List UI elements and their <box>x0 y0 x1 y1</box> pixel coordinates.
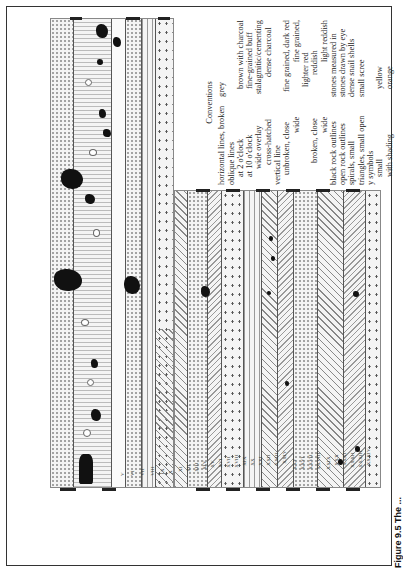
black-rock-large <box>54 269 82 291</box>
layer-label: XIII <box>194 462 199 472</box>
black-rock <box>271 256 275 261</box>
layer-scree <box>221 191 244 487</box>
legend-meaning: lighter red <box>301 20 310 97</box>
conventions-title: Conventions <box>205 20 214 185</box>
legend-row: oblique lines <box>227 20 236 185</box>
scale-bar <box>256 189 270 192</box>
legend-pattern: y symbols <box>366 97 375 185</box>
scale-bar <box>346 488 360 491</box>
legend-meaning: reddish <box>310 20 319 75</box>
legend-row: spirals, smalldense snail shells <box>347 20 356 185</box>
figure-caption: Figure 9.5 The ... <box>393 300 405 568</box>
scale-bar <box>196 488 210 491</box>
black-rock <box>91 409 101 421</box>
legend-meaning: fine grained, dark red <box>282 20 291 92</box>
legend-meaning: small scree <box>357 20 366 97</box>
black-rock <box>61 169 83 189</box>
open-rock <box>85 79 92 86</box>
layer-label: XXIX <box>326 456 331 470</box>
layer-dotted <box>51 19 73 487</box>
layer-label: XXXIII <box>358 450 363 468</box>
layer-label: VII <box>140 468 145 476</box>
layer-label: VI <box>130 470 135 476</box>
legend-row: lighter red <box>301 20 310 185</box>
layer-oblique-hatch <box>317 191 344 487</box>
layer-oblique-hatch <box>175 191 187 487</box>
legend-meaning: fine-grained buff <box>245 20 254 89</box>
scale-bar <box>102 488 116 491</box>
legend-row: open rock outlinesstones drawn by eye <box>338 20 347 185</box>
layer-oblique-hatch <box>155 329 174 487</box>
legend-pattern: unbroken, close <box>282 92 291 185</box>
legend-meaning <box>273 20 282 97</box>
layer-label: XXVI <box>300 456 305 470</box>
section-drawing-lower <box>174 190 381 488</box>
layer-oblique-hatch <box>343 191 366 487</box>
black-rock <box>267 291 271 295</box>
layer-scree <box>365 191 381 487</box>
black-rock <box>91 359 98 368</box>
scale-bar <box>286 189 300 192</box>
layer-label: XII <box>186 464 191 472</box>
black-rock <box>269 236 273 241</box>
scale-bar <box>286 488 300 491</box>
open-rock <box>89 149 97 156</box>
legend-pattern: triangles, small open <box>357 97 366 185</box>
layer-label: XVII <box>226 456 231 468</box>
layer-label: X <box>168 470 173 474</box>
layer-label: XVIII <box>234 454 239 468</box>
black-rock <box>97 59 103 65</box>
layer-label: XXV <box>292 458 297 470</box>
legend-pattern: at 2 o'clock <box>236 89 245 185</box>
legend-pattern <box>301 97 310 185</box>
layer-label: XIX <box>242 456 247 466</box>
layer-dotted <box>187 191 208 487</box>
layer-label: XXXII <box>350 452 355 468</box>
black-rock <box>285 381 289 386</box>
layer-vertical-lines <box>141 19 156 487</box>
layer-label: XXVIII <box>316 452 321 470</box>
layer-label: XXX <box>334 454 339 466</box>
legend-meaning: light reddish <box>320 20 329 62</box>
layer-label: XXXIV <box>366 448 371 466</box>
scale-bar <box>126 17 140 20</box>
black-rock <box>201 286 210 297</box>
legend-row: at 10 o'clockfine-grained buff <box>245 20 254 185</box>
layer-label: XXXI <box>342 452 347 466</box>
scale-bar <box>226 189 240 192</box>
legend-pattern: wide <box>292 62 301 185</box>
layer-label: XVI <box>218 458 223 468</box>
legend-row: cross-hatcheddense charcoal <box>264 20 273 185</box>
scale-bar <box>60 488 76 491</box>
legend-pattern: at 10 o'clock <box>245 89 254 185</box>
open-rock <box>87 379 94 386</box>
black-rock <box>103 129 111 137</box>
legend-meaning: yellow <box>375 20 384 89</box>
legend-pattern: oblique lines <box>227 97 236 185</box>
scale-bar <box>316 189 330 192</box>
layer-label: XXIV <box>282 450 287 464</box>
legend-pattern: vertical line <box>273 97 282 185</box>
layer-label: XXI <box>258 456 263 466</box>
layer-label: V <box>120 472 125 476</box>
open-rock <box>93 229 100 237</box>
legend-pattern: wide <box>320 62 329 185</box>
legend-pattern: open rock outlines <box>338 97 347 185</box>
legend-row: vertical line <box>273 20 282 185</box>
legend-meaning: dense charcoal <box>264 20 273 77</box>
layer-label: XXIII <box>274 452 279 466</box>
legend-row: at 2 o'clockbrown with charcoal <box>236 20 245 185</box>
black-rock <box>85 194 95 204</box>
layer-label: IX <box>160 468 165 474</box>
layer-label: XIV <box>202 460 207 470</box>
legend-meaning: fine grained, <box>292 20 301 62</box>
legend-row: y symbols <box>366 20 375 185</box>
black-rock <box>79 454 93 484</box>
legend-pattern: with shading <box>385 89 394 185</box>
legend-meaning: stones measured in <box>329 20 338 97</box>
legend-pattern: spirals, small <box>347 97 356 185</box>
black-rock <box>124 276 140 294</box>
layer-vertical-lines <box>243 191 262 487</box>
open-rock <box>81 319 89 326</box>
legend-meaning: brown with charcoal <box>236 20 245 89</box>
